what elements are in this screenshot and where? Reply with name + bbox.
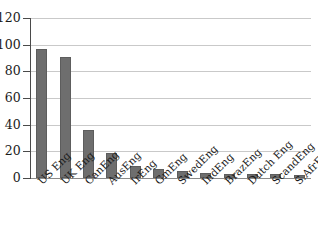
bar	[36, 49, 47, 178]
y-tick-0	[23, 178, 30, 179]
bar-chart: 020406080100120 US EngUK EngCanEngAusEng…	[0, 0, 318, 232]
y-tick-120	[23, 18, 30, 19]
x-axis-labels: US EngUK EngCanEngAusEngIrEngGmEngSwedEn…	[30, 179, 318, 232]
y-tick-80	[23, 71, 30, 72]
y-axis-label-60: 60	[5, 92, 21, 105]
y-tick-60	[23, 98, 30, 99]
y-tick-20	[23, 151, 30, 152]
y-axis-label-40: 40	[5, 119, 21, 132]
y-tick-100	[23, 45, 30, 46]
y-axis-label-0: 0	[13, 172, 21, 185]
y-axis-label-20: 20	[5, 145, 21, 158]
y-axis-label-80: 80	[5, 65, 21, 78]
y-axis-label-120: 120	[0, 12, 21, 25]
y-axis-label-100: 100	[0, 39, 21, 52]
y-tick-40	[23, 125, 30, 126]
